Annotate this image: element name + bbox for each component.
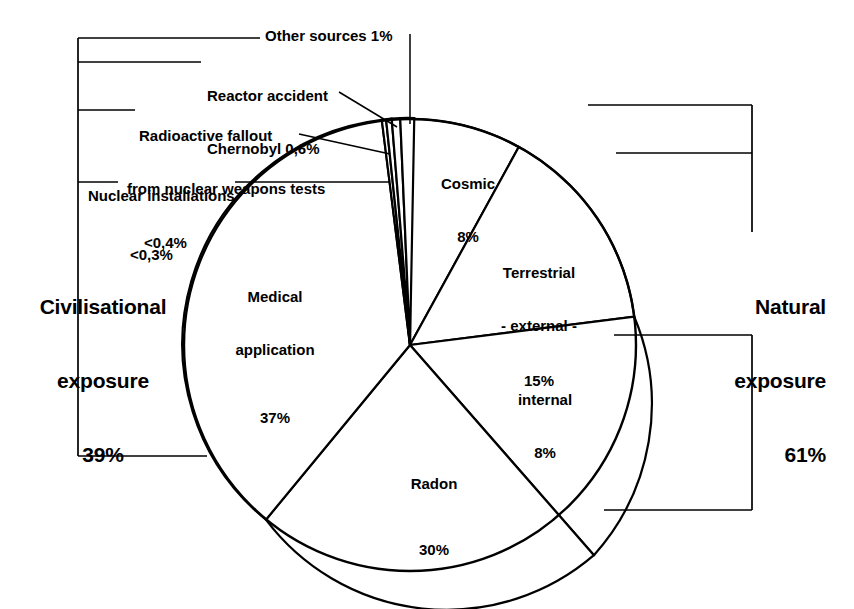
- pie-chart-figure: Cosmic 8% Terrestrial - external - 15% i…: [0, 0, 854, 609]
- slice-label-internal-value: 8%: [480, 444, 610, 462]
- slice-label-radon: Radon 30%: [374, 440, 494, 595]
- group-label-civilisational-line3: 39%: [14, 443, 192, 468]
- slice-label-radon-name: Radon: [374, 475, 494, 493]
- slice-label-medical-line2: application: [200, 341, 350, 359]
- group-label-civilisational: Civilisational exposure 39%: [14, 245, 192, 517]
- slice-label-radon-value: 30%: [374, 541, 494, 559]
- slice-label-internal-name: internal: [480, 391, 610, 409]
- callout-other-sources: Other sources 1%: [265, 27, 495, 45]
- slice-label-medical-value: 37%: [200, 409, 350, 427]
- group-label-civilisational-line2: exposure: [14, 369, 192, 394]
- callout-nuclear-installations-line1: Nuclear installations: [88, 187, 348, 205]
- group-label-natural-line3: 61%: [676, 443, 826, 468]
- group-label-natural-line2: exposure: [676, 369, 826, 394]
- group-label-natural-line1: Natural: [676, 295, 826, 320]
- slice-label-internal: internal 8%: [480, 356, 610, 498]
- slice-label-terrestrial-line1: Terrestrial: [459, 264, 619, 282]
- group-label-civilisational-line1: Civilisational: [14, 295, 192, 320]
- group-label-natural: Natural exposure 61%: [676, 245, 826, 517]
- slice-label-terrestrial-line2: - external -: [459, 317, 619, 335]
- callout-fallout-line1: Radioactive fallout: [127, 127, 417, 145]
